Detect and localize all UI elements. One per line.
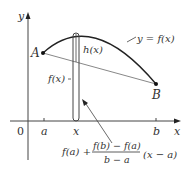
- formula-leader: [86, 104, 112, 143]
- x-axis-label: x: [174, 125, 181, 138]
- x-axis-arrow-icon: [174, 119, 181, 124]
- fx-label: f(x): [47, 73, 65, 84]
- origin-label: 0: [17, 125, 24, 138]
- curve-label: y = f(x): [136, 33, 175, 44]
- tick-b-label: b: [153, 125, 160, 138]
- formula-numerator: f(b) − f(a): [92, 140, 141, 151]
- formula-suffix: (x − a): [143, 149, 177, 160]
- point-A: [41, 51, 45, 55]
- curve-label-leader: [127, 37, 136, 42]
- point-B: [154, 82, 158, 86]
- tick-x-label: x: [73, 125, 80, 138]
- tick-a-label: a: [41, 125, 48, 138]
- mean-value-diagram: y x 0 a x b A B y = f(x) h(x) f(x) f(a) …: [0, 0, 189, 172]
- y-axis-label: y: [17, 10, 25, 23]
- y-axis-arrow-icon: [26, 12, 31, 19]
- formula-denominator: b − a: [104, 154, 130, 165]
- h-label: h(x): [83, 44, 103, 55]
- formula-prefix: f(a) +: [61, 146, 91, 157]
- point-B-label: B: [151, 88, 161, 102]
- point-A-label: A: [30, 46, 40, 60]
